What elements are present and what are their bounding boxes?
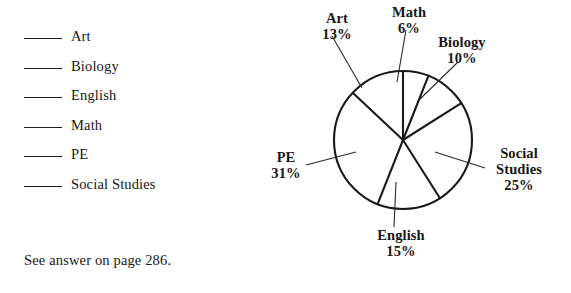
pie-label-social-studies-value: 25% [480, 177, 558, 193]
answer-blank-line[interactable] [24, 38, 62, 39]
list-item[interactable]: PE [24, 146, 254, 176]
list-item-label: Art [71, 28, 91, 45]
list-item-label: PE [71, 146, 88, 163]
pie-label-social-studies-name-line1: Social [480, 145, 558, 161]
pie-label-math: Math 6% [383, 4, 435, 36]
pie-label-social-studies: Social Studies 25% [480, 145, 558, 194]
pie-label-biology-value: 10% [425, 50, 499, 66]
pie-chart: Art 13% Math 6% Biology 10% Social Studi… [258, 0, 571, 293]
answer-blank-line[interactable] [24, 97, 62, 98]
pie-label-english-value: 15% [365, 243, 437, 259]
leader-line-art [332, 36, 362, 88]
pie-label-math-name: Math [383, 4, 435, 20]
subject-blank-list: Art Biology English Math PE Social Studi… [24, 28, 254, 205]
pie-label-english: English 15% [365, 227, 437, 259]
list-item-label: Social Studies [71, 176, 156, 193]
list-item[interactable]: English [24, 87, 254, 117]
pie-label-english-name: English [365, 227, 437, 243]
pie-label-pe-name: PE [265, 149, 307, 165]
pie-label-art-value: 13% [314, 26, 360, 42]
answer-blank-line[interactable] [24, 127, 62, 128]
pie-label-biology: Biology 10% [425, 34, 499, 66]
list-item[interactable]: Math [24, 117, 254, 147]
answer-blank-line[interactable] [24, 156, 62, 157]
list-item[interactable]: Art [24, 28, 254, 58]
list-item-label: Biology [71, 58, 119, 75]
pie-label-pe-value: 31% [265, 165, 307, 181]
answer-reference-note: See answer on page 286. [24, 252, 171, 269]
pie-label-pe: PE 31% [265, 149, 307, 181]
answer-blank-line[interactable] [24, 68, 62, 69]
list-item-label: English [71, 87, 116, 104]
pie-label-art-name: Art [314, 10, 360, 26]
list-item-label: Math [71, 117, 102, 134]
answer-blank-line[interactable] [24, 186, 62, 187]
pie-label-social-studies-name-line2: Studies [480, 161, 558, 177]
pie-label-art: Art 13% [314, 10, 360, 42]
list-item[interactable]: Biology [24, 58, 254, 88]
list-item[interactable]: Social Studies [24, 176, 254, 206]
pie-label-biology-name: Biology [425, 34, 499, 50]
